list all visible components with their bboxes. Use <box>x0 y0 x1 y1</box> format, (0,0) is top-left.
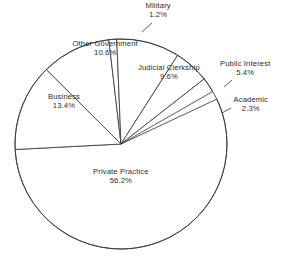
pie-label-name: Academic <box>234 95 269 104</box>
pie-label-name: Military <box>146 1 171 10</box>
pie-chart: Private Practice56.2%Business13.4%Other … <box>0 0 284 265</box>
pie-label-value: 5.4% <box>220 68 270 77</box>
pie-label-value: 13.4% <box>48 101 80 110</box>
leader-line-academic <box>222 108 231 113</box>
leader-line-military <box>142 23 152 32</box>
pie-chart-canvas <box>0 0 284 265</box>
pie-label-name: Private Practice <box>93 167 149 176</box>
pie-label-military: Military1.2% <box>146 1 171 20</box>
pie-label-name: Other Government <box>73 39 138 48</box>
pie-label-value: 1.2% <box>146 10 171 19</box>
leader-line-public-interest <box>224 80 232 87</box>
pie-label-judicial-clerkship: Judicial Clerkship9.6% <box>138 63 200 82</box>
pie-label-value: 9.6% <box>138 72 200 81</box>
pie-label-name: Business <box>48 92 80 101</box>
pie-label-public-interest: Public Interest5.4% <box>220 59 270 78</box>
pie-label-private-practice: Private Practice56.2% <box>93 167 149 186</box>
pie-label-academic: Academic2.3% <box>234 95 269 114</box>
pie-label-business: Business13.4% <box>48 92 80 111</box>
pie-label-value: 56.2% <box>93 176 149 185</box>
pie-label-name: Judicial Clerkship <box>138 63 200 72</box>
pie-label-other-government: Other Government10.6% <box>73 39 138 58</box>
pie-label-name: Public Interest <box>220 59 270 68</box>
pie-label-value: 10.6% <box>73 48 138 57</box>
pie-label-value: 2.3% <box>234 104 269 113</box>
